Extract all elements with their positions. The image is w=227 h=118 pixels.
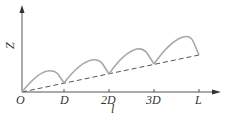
sawtooth-diagram: O D 2D 3D L l Z — [0, 0, 227, 118]
arc-3 — [109, 49, 154, 74]
tick-label-d: D — [59, 93, 69, 107]
tick-label-l: L — [194, 93, 202, 107]
arc-4 — [154, 37, 199, 65]
sawtooth-curve — [22, 37, 199, 93]
dashed-baseline — [22, 55, 199, 92]
tick-label-3d: 3D — [145, 93, 161, 107]
arc-2 — [64, 60, 109, 83]
arc-1 — [22, 71, 64, 92]
x-axis-arrow-icon — [212, 90, 221, 95]
y-axis-label: Z — [3, 42, 17, 49]
origin-label: O — [16, 93, 25, 107]
y-axis-arrow-icon — [20, 5, 25, 13]
